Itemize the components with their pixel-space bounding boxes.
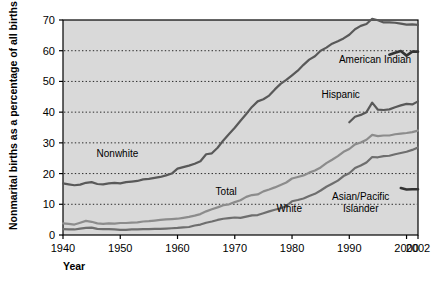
y-tick-label-10: 10 <box>43 198 55 210</box>
x-tick-label-1940: 1940 <box>51 242 75 254</box>
y-tick-label-60: 60 <box>43 45 55 57</box>
x-axis-title: Year <box>63 260 85 272</box>
y-tick-label-70: 70 <box>43 14 55 26</box>
y-tick-label-50: 50 <box>43 75 55 87</box>
y-tick-label-20: 20 <box>43 168 55 180</box>
x-tick-label-1990: 1990 <box>337 242 361 254</box>
x-tick-label-1950: 1950 <box>108 242 132 254</box>
series-label-nonwhite: Nonwhite <box>97 148 139 159</box>
y-axis-title: Nonmarital births as a percentage of all… <box>7 1 19 230</box>
x-tick-label-1970: 1970 <box>223 242 247 254</box>
series-label-asian-pacific-islander-line2: Islander <box>343 203 379 214</box>
y-tick-label-30: 30 <box>43 137 55 149</box>
series-label-hispanic: Hispanic <box>322 89 360 100</box>
series-line-asian-pacific-islander <box>401 188 418 190</box>
chart-figure: 010203040506070 194019501960197019801990… <box>0 0 447 284</box>
y-tick-label-40: 40 <box>43 106 55 118</box>
x-tick-label-2002: 2002 <box>406 242 430 254</box>
x-tick-label-1980: 1980 <box>280 242 304 254</box>
series-label-american-indian: American Indian <box>339 54 411 65</box>
nonmarital-births-line-chart: 010203040506070 194019501960197019801990… <box>0 0 447 284</box>
x-tick-label-1960: 1960 <box>165 242 189 254</box>
series-label-white: White <box>276 203 302 214</box>
y-tick-label-0: 0 <box>49 229 55 241</box>
series-label-asian-pacific-islander-line1: Asian/Pacific <box>332 191 389 202</box>
series-label-total: Total <box>216 186 237 197</box>
